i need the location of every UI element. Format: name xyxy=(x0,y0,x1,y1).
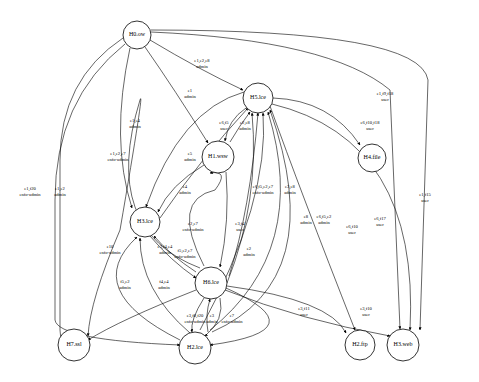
edge-label: user xyxy=(362,312,370,317)
edge-label: user xyxy=(220,126,228,131)
edge-label: admin xyxy=(129,124,141,129)
edge-label: e1 xyxy=(188,88,193,93)
graph-edge: e3,f8,f20enfo-admin xyxy=(184,298,206,332)
node-label: H3.web xyxy=(394,341,413,347)
edge-label: e2 xyxy=(247,246,252,251)
edge-arrow xyxy=(151,30,428,330)
edge-arrow xyxy=(55,44,180,345)
node-label: H2.lce xyxy=(187,344,203,350)
edges-layer: e1,e2,e8admine1admine1,e4admine1,f20enfo… xyxy=(19,30,431,345)
edge-label: admin xyxy=(158,285,170,290)
attack-graph: e1,e2,e8admine1admine1,e4admine1,f20enfo… xyxy=(0,0,479,382)
edge-arrow xyxy=(227,113,254,283)
edge-arrow xyxy=(189,173,221,266)
graph-edge: e1,e2,e8admin xyxy=(150,40,243,90)
edge-arrow xyxy=(220,172,227,267)
edge-label: e8 xyxy=(304,214,309,219)
edge-label: enfo-admin xyxy=(221,319,243,324)
edge-label: admin xyxy=(119,285,131,290)
edge-arrow xyxy=(227,286,346,333)
edge-label: user xyxy=(236,227,244,232)
graph-edge: e6,f10,f18user xyxy=(273,98,380,145)
edge-label: e7 xyxy=(230,313,235,318)
edge-label: admin xyxy=(300,220,312,225)
graph-node-h3[interactable]: H3.lce xyxy=(130,207,160,237)
graph-edge: e1,e2admin xyxy=(54,44,180,345)
edge-label: admin xyxy=(318,220,330,225)
edge-label: admin xyxy=(179,190,191,195)
edge-label: admin xyxy=(54,192,66,197)
graph-edge: e6,f5,e2admin xyxy=(212,110,332,332)
edge-label: e3 xyxy=(210,313,215,318)
node-label: H0.ow xyxy=(129,31,146,37)
graph-edge: e6,f10user xyxy=(270,106,359,330)
node-label: H4.file xyxy=(364,154,381,160)
edge-label: admin xyxy=(243,252,255,257)
edge-arrow xyxy=(151,32,400,329)
edge-label: enfo-admin xyxy=(19,192,41,197)
graph-edge: e3,f4user xyxy=(220,172,245,267)
graph-edge: e6,f17user xyxy=(272,104,411,330)
edge-label: user xyxy=(300,312,308,317)
edge-label: user xyxy=(381,97,389,102)
node-label: H1.wsw xyxy=(208,153,229,159)
edge-label: e5 xyxy=(188,151,193,156)
node-label: H7.ssl xyxy=(66,341,82,347)
graph-node-h1[interactable]: H1.wsw xyxy=(202,141,234,173)
graph-node-h6[interactable]: H6.lce xyxy=(195,267,227,299)
node-label: H5.lce xyxy=(250,94,266,100)
graph-edge: e1,f9,f18user xyxy=(151,32,400,329)
edge-label: enfo-admin xyxy=(99,250,121,255)
edge-arrow xyxy=(58,38,123,345)
edge-label: enfo-admin xyxy=(107,157,129,162)
edge-label: admin xyxy=(184,157,196,162)
edge-label: enfo-admin xyxy=(182,227,204,232)
graph-node-h9[interactable]: H3.web xyxy=(387,329,419,361)
edge-label: admin xyxy=(159,250,171,255)
edge-arrow xyxy=(273,98,360,145)
graph-edge: e2,e8admin xyxy=(230,112,251,142)
edge-label: user xyxy=(348,230,356,235)
edge-label: admin xyxy=(196,64,208,69)
graph-node-h4[interactable]: H4.file xyxy=(358,144,386,172)
node-label: H3.lce xyxy=(137,218,153,224)
node-label: H2.ftp xyxy=(352,341,368,347)
graph-node-h5[interactable]: H5.lce xyxy=(243,83,273,113)
edge-label: e10 xyxy=(107,244,114,249)
edge-arrow xyxy=(88,290,196,340)
graph-node-h8[interactable]: H2.ftp xyxy=(345,330,375,360)
edge-arrow xyxy=(272,104,411,330)
edge-label: user xyxy=(421,198,429,203)
edge-label: admin xyxy=(284,190,296,195)
node-label: H6.lce xyxy=(203,279,219,285)
graph-edge: e1,e4admin xyxy=(120,48,141,208)
graph-node-h2[interactable]: H2.lce xyxy=(179,332,211,364)
graph-node-h7[interactable]: H7.ssl xyxy=(58,329,90,361)
graph-edge: e1,f20enfo-admin xyxy=(19,38,123,345)
edge-label: admin xyxy=(184,94,196,99)
edge-label: user xyxy=(366,126,374,131)
graph-edge: e1,f15user xyxy=(151,30,432,330)
edge-label: admin xyxy=(239,126,251,131)
edge-label: enfo-admin xyxy=(174,254,196,259)
graph-node-h0[interactable]: H0.ow xyxy=(123,21,151,49)
graph-edge xyxy=(88,290,196,340)
edge-label: enfo-admin xyxy=(184,319,206,324)
edge-label: user xyxy=(376,222,384,227)
graph-edge: e3admin xyxy=(206,299,218,332)
